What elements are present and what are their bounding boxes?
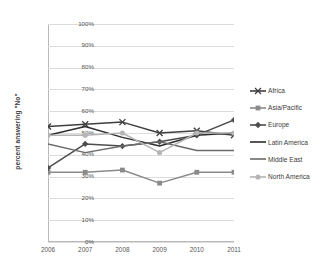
legend-item-latin-america[interactable]: Latin America <box>249 134 333 151</box>
square-marker <box>157 181 162 186</box>
legend-swatch <box>249 154 267 164</box>
series-line <box>48 170 234 183</box>
square-marker <box>232 170 234 175</box>
x-tick-label: 2008 <box>102 246 142 253</box>
legend-label: Europe <box>268 121 289 128</box>
legend-swatch <box>249 103 267 113</box>
y-axis-title: percent answering "No" <box>14 77 21 187</box>
circle-marker <box>120 130 125 135</box>
legend: AfricaAsia/PacificEuropeLatin AmericaMid… <box>249 82 333 185</box>
square-marker <box>194 170 199 175</box>
circle-marker <box>255 174 260 179</box>
diamond-marker <box>231 117 234 123</box>
x-tick-label: 2009 <box>140 246 180 253</box>
circle-marker <box>157 150 162 155</box>
legend-item-north-america[interactable]: North America <box>249 168 333 185</box>
x-tick-label: 2007 <box>65 246 105 253</box>
x-tick-label: 2006 <box>28 246 68 253</box>
legend-item-africa[interactable]: Africa <box>249 82 333 99</box>
circle-marker <box>48 133 51 138</box>
legend-item-asia-pacific[interactable]: Asia/Pacific <box>249 99 333 116</box>
square-marker <box>256 105 261 110</box>
square-marker <box>83 170 88 175</box>
legend-item-middle-east[interactable]: Middle East <box>249 151 333 168</box>
legend-item-europe[interactable]: Europe <box>249 116 333 133</box>
x-tick-label: 2010 <box>177 246 217 253</box>
plot-series-layer <box>48 24 234 242</box>
x-tick-label: 2011 <box>214 246 254 253</box>
legend-label: Middle East <box>268 156 302 163</box>
series-asia-pacific <box>48 168 234 186</box>
legend-swatch <box>249 137 267 147</box>
legend-swatch <box>249 120 267 130</box>
legend-label: North America <box>268 173 310 180</box>
legend-label: Africa <box>268 87 285 94</box>
square-marker <box>120 168 125 173</box>
circle-marker <box>194 130 199 135</box>
line-chart: percent answering "No" 100%90%80%70%60%5… <box>0 0 333 269</box>
legend-swatch <box>249 172 267 182</box>
legend-label: Latin America <box>268 139 308 146</box>
legend-label: Asia/Pacific <box>268 104 302 111</box>
diamond-marker <box>255 122 261 128</box>
circle-marker <box>83 133 88 138</box>
legend-swatch <box>249 86 267 96</box>
